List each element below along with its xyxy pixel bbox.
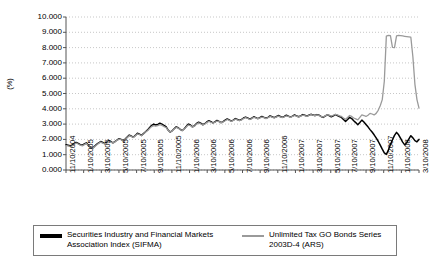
x-tick-label: 1/10/2005 [87,139,95,173]
x-tick-label: 5/10/2006 [228,139,236,173]
legend-item-ars[interactable]: Unlimited Tax GO Bonds Series 2003D-4 (A… [242,230,396,250]
x-tick-label: 11/10/2005 [175,136,183,173]
chart-legend: Securities Industry and Financial Market… [33,225,397,256]
x-tick-label: 1/10/2008 [404,139,412,173]
x-tick-label: 11/10/2006 [281,136,289,173]
x-tick-label: 9/10/2007 [369,139,377,173]
x-tick-label: 1/10/2006 [193,139,201,173]
x-tick-label: 3/10/2005 [104,139,112,173]
x-tick-label: 11/10/2004 [69,136,77,173]
legend-swatch-icon [242,235,264,238]
x-tick-label: 5/10/2005 [122,139,130,173]
legend-label: Unlimited Tax GO Bonds Series 2003D-4 (A… [269,230,396,250]
legend-item-sifma[interactable]: Securities Industry and Financial Market… [40,230,217,250]
x-tick-label: 9/10/2005 [157,139,165,173]
x-tick-label: 1/10/2007 [298,139,306,173]
x-tick-label: 11/10/2007 [387,136,395,173]
x-tick-label: 3/10/2008 [422,139,430,173]
x-tick-label: 3/10/2006 [210,139,218,173]
x-tick-label: 3/10/2007 [316,139,324,173]
legend-label: Securities Industry and Financial Market… [67,230,217,250]
x-tick-label: 7/10/2005 [140,139,148,173]
x-tick-label: 7/10/2007 [351,139,359,173]
x-tick-label: 9/10/2006 [263,139,271,173]
legend-swatch-icon [40,234,62,238]
x-tick-label: 5/10/2007 [334,139,342,173]
x-tick-label: 7/10/2006 [246,139,254,173]
